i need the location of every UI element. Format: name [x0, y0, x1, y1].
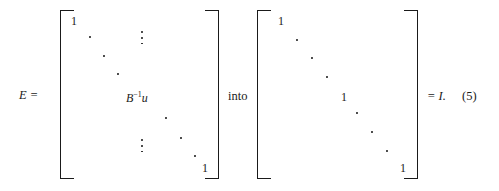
equation-figure: E = 1 B−1u 1 into [0, 0, 499, 191]
matrix-b-diagonal-dot-4 [356, 112, 358, 114]
matrix-e-entry-b-inverse-u: B−1u [126, 91, 148, 104]
matrix-b-diagonal-dot-2 [311, 57, 313, 59]
matrix-b-entry-top-left-one: 1 [278, 15, 284, 27]
matrix-e-diagonal-dot-2 [103, 55, 105, 57]
b-inverse-exponent: −1 [133, 90, 142, 99]
matrix-b-diagonal-dot-3 [326, 76, 328, 78]
matrix-e-diagonal-dot-3 [117, 73, 119, 75]
matrix-e-diagonal-dot-6 [194, 155, 196, 157]
matrix-e-diagonal-dot-1 [89, 36, 91, 38]
matrix-e-diagonal-dot-4 [165, 117, 167, 119]
matrix-b-entry-bottom-right-one: 1 [400, 162, 406, 174]
matrix-b-diagonal-dot-5 [371, 131, 373, 133]
matrix-b-entry-middle-one: 1 [341, 91, 347, 103]
equation-number: (5) [462, 90, 477, 103]
matrix-b-diagonal-dot-6 [386, 150, 388, 152]
identity-result-label: = I. [427, 90, 446, 103]
matrix-b-right-bracket [404, 10, 418, 179]
matrix-e-right-bracket [205, 10, 219, 179]
matrix-b-diagonal-dot-1 [296, 39, 298, 41]
matrix-e-vertical-ellipsis-lower [141, 139, 143, 152]
matrix-e-label: E = [19, 89, 38, 102]
matrix-e-left-bracket [60, 10, 74, 179]
matrix-e-entry-top-left-one: 1 [71, 15, 77, 27]
matrix-e-vertical-ellipsis-upper [141, 31, 143, 44]
matrix-e-entry-bottom-right-one: 1 [202, 162, 208, 174]
matrix-e-diagonal-dot-5 [180, 137, 182, 139]
connector-label: into [228, 90, 247, 103]
matrix-b-left-bracket [257, 10, 271, 179]
u-vector: u [142, 91, 148, 105]
